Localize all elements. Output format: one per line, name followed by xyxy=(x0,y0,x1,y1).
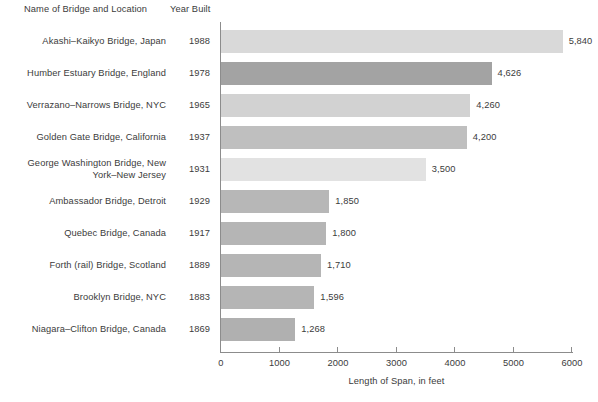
x-axis-tick-label: 1000 xyxy=(250,358,310,368)
header-year-built: Year Built xyxy=(170,4,230,14)
year-built-value: 1988 xyxy=(176,36,210,46)
x-axis-tick xyxy=(279,347,280,352)
x-axis-tick-label: 6000 xyxy=(542,358,598,368)
bridge-name-line: Verrazano–Narrows Bridge, NYC xyxy=(0,100,166,112)
bar xyxy=(221,254,321,277)
bar xyxy=(221,222,326,245)
chart-row: Brooklyn Bridge, NYC18831,596 xyxy=(0,283,598,315)
year-built-value: 1929 xyxy=(176,196,210,206)
column-headers: Name of Bridge and Location Year Built xyxy=(0,0,598,22)
bar-value-label: 1,596 xyxy=(320,292,344,302)
bar-value-label: 1,268 xyxy=(301,324,325,334)
x-axis-title: Length of Span, in feet xyxy=(220,376,573,386)
bridge-name-line: Brooklyn Bridge, NYC xyxy=(0,292,166,304)
bridge-name-label: Golden Gate Bridge, California xyxy=(0,132,166,144)
bar xyxy=(221,190,329,213)
bar-value-label: 5,840 xyxy=(569,36,593,46)
bridge-name-label: Quebec Bridge, Canada xyxy=(0,228,166,240)
bridge-name-label: Brooklyn Bridge, NYC xyxy=(0,292,166,304)
bar xyxy=(221,318,295,341)
bridge-span-bar-chart: Name of Bridge and Location Year Built A… xyxy=(0,0,598,402)
x-axis-tick-label: 0 xyxy=(191,358,251,368)
chart-row: Verrazano–Narrows Bridge, NYC19654,260 xyxy=(0,91,598,123)
year-built-value: 1931 xyxy=(176,164,210,174)
bar-value-label: 4,626 xyxy=(498,68,522,78)
bridge-name-line: George Washington Bridge, New xyxy=(0,158,166,170)
bridge-name-line: Niagara–Clifton Bridge, Canada xyxy=(0,324,166,336)
bar-value-label: 1,800 xyxy=(332,228,356,238)
year-built-value: 1869 xyxy=(176,324,210,334)
bridge-name-label: Ambassador Bridge, Detroit xyxy=(0,196,166,208)
plot-area: Akashi–Kaikyo Bridge, Japan19885,840Humb… xyxy=(0,22,598,352)
bar-value-label: 4,200 xyxy=(473,132,497,142)
x-axis-tick-label: 3000 xyxy=(367,358,427,368)
chart-row: Golden Gate Bridge, California19374,200 xyxy=(0,123,598,155)
y-axis-line xyxy=(220,22,221,352)
bar-value-label: 1,850 xyxy=(335,196,359,206)
bridge-name-line: Golden Gate Bridge, California xyxy=(0,132,166,144)
bar xyxy=(221,126,467,149)
x-axis-tick-label: 5000 xyxy=(484,358,544,368)
year-built-value: 1917 xyxy=(176,228,210,238)
bridge-name-label: Humber Estuary Bridge, England xyxy=(0,68,166,80)
year-built-value: 1937 xyxy=(176,132,210,142)
chart-row: Niagara–Clifton Bridge, Canada18691,268 xyxy=(0,315,598,347)
bridge-name-label: George Washington Bridge, NewYork–New Je… xyxy=(0,158,166,181)
year-built-value: 1978 xyxy=(176,68,210,78)
bridge-name-label: Verrazano–Narrows Bridge, NYC xyxy=(0,100,166,112)
bridge-name-line: Forth (rail) Bridge, Scotland xyxy=(0,260,166,272)
bridge-name-line: Humber Estuary Bridge, England xyxy=(0,68,166,80)
x-axis-line xyxy=(220,352,573,353)
chart-row: George Washington Bridge, NewYork–New Je… xyxy=(0,155,598,187)
year-built-value: 1965 xyxy=(176,100,210,110)
bridge-name-line: Quebec Bridge, Canada xyxy=(0,228,166,240)
chart-row: Ambassador Bridge, Detroit19291,850 xyxy=(0,187,598,219)
bridge-name-line: Akashi–Kaikyo Bridge, Japan xyxy=(0,36,166,48)
bridge-name-label: Niagara–Clifton Bridge, Canada xyxy=(0,324,166,336)
bar xyxy=(221,94,470,117)
x-axis-tick xyxy=(454,347,455,352)
x-axis-tick-label: 4000 xyxy=(425,358,485,368)
bar-value-label: 3,500 xyxy=(432,164,456,174)
bar-value-label: 4,260 xyxy=(476,100,500,110)
x-axis-tick-label: 2000 xyxy=(308,358,368,368)
x-axis-tick xyxy=(513,347,514,352)
x-axis-tick xyxy=(396,347,397,352)
bridge-name-line: York–New Jersey xyxy=(0,170,166,182)
x-axis-tick xyxy=(337,347,338,352)
x-axis-tick xyxy=(220,347,221,352)
header-name-of-bridge: Name of Bridge and Location xyxy=(0,4,190,14)
year-built-value: 1883 xyxy=(176,292,210,302)
year-built-value: 1889 xyxy=(176,260,210,270)
bar xyxy=(221,286,314,309)
bridge-name-label: Akashi–Kaikyo Bridge, Japan xyxy=(0,36,166,48)
bar xyxy=(221,62,492,85)
bar xyxy=(221,30,563,53)
bridge-name-label: Forth (rail) Bridge, Scotland xyxy=(0,260,166,272)
chart-row: Akashi–Kaikyo Bridge, Japan19885,840 xyxy=(0,27,598,59)
bar xyxy=(221,158,426,181)
chart-row: Humber Estuary Bridge, England19784,626 xyxy=(0,59,598,91)
x-axis-tick xyxy=(571,347,572,352)
chart-row: Forth (rail) Bridge, Scotland18891,710 xyxy=(0,251,598,283)
bridge-name-line: Ambassador Bridge, Detroit xyxy=(0,196,166,208)
bar-value-label: 1,710 xyxy=(327,260,351,270)
chart-row: Quebec Bridge, Canada19171,800 xyxy=(0,219,598,251)
